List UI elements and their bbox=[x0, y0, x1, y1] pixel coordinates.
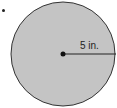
radius-label: 5 in. bbox=[80, 40, 99, 51]
circle-diagram: 5 in. bbox=[0, 0, 117, 108]
center-point bbox=[61, 52, 66, 57]
